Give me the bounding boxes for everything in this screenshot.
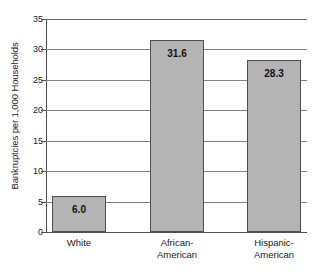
plot-area: 6.031.628.3 — [46, 19, 307, 232]
bar-value-label: 6.0 — [53, 204, 105, 215]
bar: 28.3 — [247, 60, 301, 232]
bar-chart: Bankruptcies per 1,000 Households 353025… — [0, 0, 322, 276]
x-axis-category-label: Hispanic-American — [224, 237, 322, 260]
y-axis-tick-mark — [41, 49, 46, 50]
x-axis-category-label-line: American — [224, 249, 322, 261]
bar: 6.0 — [52, 196, 106, 233]
x-axis-category-label: African-American — [127, 237, 227, 260]
gridline — [46, 19, 307, 20]
x-axis-category-label-line: African- — [127, 237, 227, 249]
y-axis-tick-mark — [41, 110, 46, 111]
y-axis-tick-mark — [41, 202, 46, 203]
y-axis-tick-mark — [41, 141, 46, 142]
y-axis-title: Bankruptcies per 1,000 Households — [8, 0, 22, 232]
bar: 31.6 — [150, 40, 204, 232]
y-axis-tick-mark — [41, 171, 46, 172]
x-axis-category-label-line: White — [29, 237, 129, 249]
y-axis-tick-mark — [41, 19, 46, 20]
bar-value-label: 28.3 — [248, 68, 300, 79]
y-axis-tick-mark — [41, 80, 46, 81]
x-axis-category-label: White — [29, 237, 129, 249]
bar-value-label: 31.6 — [151, 48, 203, 59]
x-axis-category-label-line: American — [127, 249, 227, 261]
y-axis-tick-labels: 35302520151050 — [26, 13, 43, 233]
y-axis-tick-mark — [41, 232, 46, 233]
x-axis-category-label-line: Hispanic- — [224, 237, 322, 249]
x-axis-line — [46, 232, 307, 233]
